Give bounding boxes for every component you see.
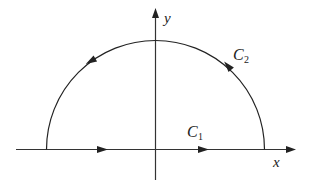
c2-subscript: 2	[244, 54, 249, 65]
x-axis-arrow-icon	[286, 146, 296, 153]
c1-direction-arrow-icon	[198, 146, 209, 153]
c2-label: C	[233, 46, 244, 63]
x-axis-label: x	[272, 154, 280, 170]
y-axis-arrow-icon	[152, 8, 159, 18]
contour-diagram: y x C 2 C 1	[0, 0, 310, 187]
c1-subscript: 1	[198, 131, 203, 142]
c1-label: C	[187, 123, 198, 140]
c1-direction-arrow-icon	[97, 146, 108, 153]
y-axis-label: y	[162, 10, 171, 26]
